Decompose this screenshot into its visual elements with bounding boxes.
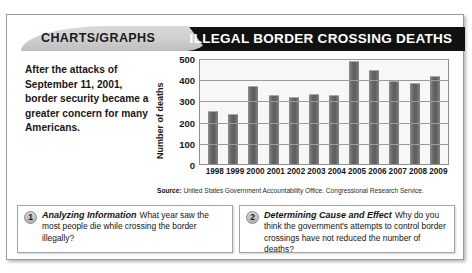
bar-2008: [410, 83, 420, 164]
gridline-100: [200, 144, 448, 145]
gridline-500: [200, 59, 448, 60]
source-text: United States Government Accountability …: [182, 187, 424, 194]
page-title: ILLEGAL BORDER CROSSING DEATHS: [187, 31, 455, 46]
bar-slot-2001: [267, 60, 280, 164]
gridline-200: [200, 123, 448, 124]
bar-1998: [208, 111, 218, 164]
source-line: Source: United States Government Account…: [157, 187, 457, 194]
x-tick-2004: 2004: [328, 167, 341, 176]
y-tick-400: 400: [167, 75, 195, 86]
bar-slot-2002: [287, 60, 300, 164]
x-tick-2003: 2003: [307, 167, 320, 176]
x-tick-1998: 1998: [206, 167, 219, 176]
question-text-2: Determining Cause and EffectWhy do you t…: [264, 210, 449, 256]
x-tick-2007: 2007: [389, 167, 402, 176]
bar-slot-1998: [207, 60, 220, 164]
gridline-400: [200, 80, 448, 81]
bar-2002: [289, 97, 299, 164]
bar-slot-2006: [368, 60, 381, 164]
y-tick-0: 0: [167, 160, 195, 171]
bar-2003: [309, 94, 319, 164]
bar-series: [200, 60, 448, 164]
bar-2009: [430, 76, 440, 164]
bar-slot-1999: [227, 60, 240, 164]
x-tick-2009: 2009: [429, 167, 442, 176]
question-text-1: Analyzing InformationWhat year saw the m…: [42, 210, 227, 244]
bar-2006: [369, 70, 379, 164]
x-tick-2008: 2008: [409, 167, 422, 176]
bar-slot-2004: [328, 60, 341, 164]
header-band: CHARTS/GRAPHS ILLEGAL BORDER CROSSING DE…: [7, 27, 465, 51]
bar-2005: [349, 61, 359, 164]
bar-slot-2009: [428, 60, 441, 164]
intro-paragraph: After the attacks of September 11, 2001,…: [25, 63, 153, 136]
graphic-card: CHARTS/GRAPHS ILLEGAL BORDER CROSSING DE…: [6, 14, 464, 260]
x-tick-2006: 2006: [368, 167, 381, 176]
bar-slot-2008: [408, 60, 421, 164]
y-tick-500: 500: [167, 54, 195, 65]
tab-label: CHARTS/GRAPHS: [41, 31, 155, 45]
bar-slot-2005: [348, 60, 361, 164]
x-tick-2002: 2002: [287, 167, 300, 176]
x-tick-2005: 2005: [348, 167, 361, 176]
x-axis-labels: 1998199920002001200220032004200520062007…: [199, 167, 449, 176]
y-tick-100: 100: [167, 138, 195, 149]
x-tick-1999: 1999: [226, 167, 239, 176]
question-number-2: 2: [246, 211, 259, 224]
x-tick-2001: 2001: [267, 167, 280, 176]
question-number-1: 1: [24, 211, 37, 224]
question-title-1: Analyzing Information: [42, 210, 140, 220]
question-title-2: Determining Cause and Effect: [264, 210, 395, 220]
chart-graphic-page: CHARTS/GRAPHS ILLEGAL BORDER CROSSING DE…: [0, 0, 472, 273]
y-tick-300: 300: [167, 96, 195, 107]
bar-slot-2003: [307, 60, 320, 164]
gridline-300: [200, 101, 448, 102]
bar-chart: Number of deaths 0100200300400500 199819…: [157, 59, 453, 181]
bar-2004: [329, 95, 339, 164]
source-prefix: Source:: [157, 187, 182, 194]
bar-slot-2007: [388, 60, 401, 164]
question-box-2[interactable]: 2 Determining Cause and EffectWhy do you…: [239, 205, 455, 253]
plot-area: [199, 59, 449, 165]
x-tick-2000: 2000: [246, 167, 259, 176]
y-tick-200: 200: [167, 117, 195, 128]
y-axis-ticks: 0100200300400500: [165, 59, 195, 165]
bar-2001: [269, 95, 279, 164]
bar-slot-2000: [247, 60, 260, 164]
bar-2000: [248, 86, 258, 164]
question-box-1[interactable]: 1 Analyzing InformationWhat year saw the…: [17, 205, 233, 253]
